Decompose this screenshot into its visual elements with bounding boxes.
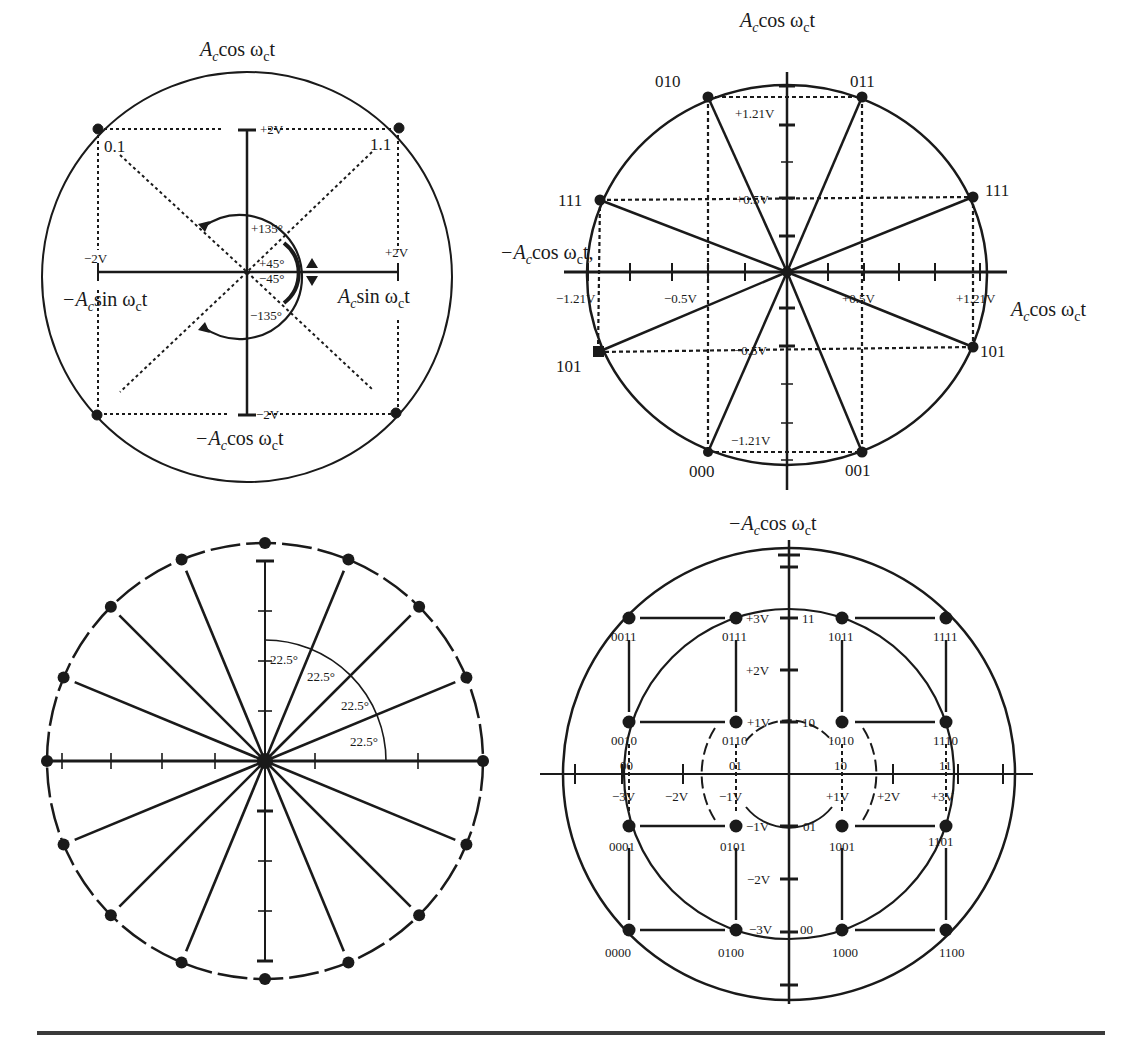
qpsk-labels: Accos ωct −Accos ωct −Acsin ωct Acsin ωc… [62, 38, 410, 453]
qam16-point-label-1011: 1011 [828, 629, 854, 644]
qam16-x-code-01: 01 [729, 758, 742, 773]
psk16-point [460, 838, 472, 850]
psk16-point [413, 601, 425, 613]
psk16-point [41, 755, 53, 767]
psk8-point-label-111-right: 111 [985, 181, 1009, 200]
qam16-y-code-10: 10 [802, 715, 815, 730]
psk8-point-101-left [593, 346, 604, 357]
psk8-point-001 [857, 447, 868, 458]
qam16-point-1111 [940, 612, 953, 625]
qpsk-point-label-01: 0.1 [104, 137, 125, 156]
arrowhead-icon [198, 322, 210, 333]
qam16-point-label-0001: 0001 [609, 839, 635, 854]
qpsk-tick-bottom: −2V [256, 407, 280, 422]
qpsk-angle-label-m135: −135° [250, 308, 282, 323]
psk8-y-tick-p05: +0.5V [736, 192, 770, 207]
psk8-point-010 [703, 92, 714, 103]
arrowhead-icon [198, 221, 210, 232]
psk16-point [58, 672, 70, 684]
qam16-diagram [540, 540, 1033, 1004]
qpsk-axis-label-top: Accos ωct [198, 38, 275, 64]
qam16-y-tick-m2: −2V [747, 872, 771, 887]
psk8-point-label-000: 000 [689, 462, 715, 481]
qam16-point-0100 [730, 924, 743, 937]
qam16-point-label-0111: 0111 [722, 629, 747, 644]
psk8-x-tick-m121: −1.21V [556, 291, 596, 306]
qam16-y-tick-p1: +1V [747, 715, 771, 730]
psk8-x-tick-p05: +0.5V [842, 291, 876, 306]
qam16-point-label-1010: 1010 [828, 733, 854, 748]
qam16-point-0110 [730, 716, 743, 729]
psk16-point [477, 755, 489, 767]
psk8-point-101-right [968, 342, 979, 353]
qam16-x-tick-p3: +3V [931, 789, 955, 804]
qam16-x-code-00: 00 [620, 758, 633, 773]
qam16-point-0101 [730, 820, 743, 833]
qpsk-tick-left: −2V [84, 251, 108, 266]
qpsk-point-00 [92, 410, 102, 420]
qam16-point-1010 [836, 716, 849, 729]
constellation-figure: Accos ωct −Accos ωct −Acsin ωct Acsin ωc… [0, 0, 1139, 1053]
psk8-x-tick-p121: +1.21V [956, 291, 996, 306]
psk16-point [176, 956, 188, 968]
psk8-point-label-101-right: 101 [980, 342, 1006, 361]
qam16-x-tick-m1: −1V [719, 789, 743, 804]
qam16-point-label-1000: 1000 [832, 945, 858, 960]
qam16-labels: −Accos ωct −3V −2V −1V +1V +2V +3V 00 01… [605, 512, 965, 960]
qam16-point-0111 [730, 612, 743, 625]
constellation-diagrams-svg: Accos ωct −Accos ωct −Acsin ωct Acsin ωc… [0, 0, 1139, 1053]
psk8-point-label-101-left: 101 [556, 357, 582, 376]
psk16-point [259, 973, 271, 985]
qpsk-angle-label-m45: −45° [259, 271, 285, 286]
qam16-point-1000 [836, 924, 849, 937]
psk8-point-111-right [968, 192, 979, 203]
qpsk-axis-label-right: Acsin ωct [336, 285, 410, 311]
qam16-point-1001 [836, 820, 849, 833]
qam16-point-1100 [940, 924, 953, 937]
qam16-point-label-0011: 0011 [611, 629, 637, 644]
qpsk-point-label-11: 1.1 [370, 135, 391, 154]
psk16-diagram [41, 537, 489, 985]
qam16-point-1101 [940, 820, 953, 833]
qam16-y-code-00: 00 [800, 922, 813, 937]
psk8-y-tick-p121: +1.21V [735, 106, 775, 121]
arrowhead-icon [306, 258, 318, 268]
figure-bottom-rule [37, 1031, 1105, 1035]
qam16-point-1011 [836, 612, 849, 625]
psk16-angle-label-1: 22.5° [270, 652, 298, 667]
psk16-angle-label-4: 22.5° [350, 734, 378, 749]
psk16-point [105, 601, 117, 613]
qpsk-point-10 [391, 408, 401, 418]
psk16-origin [257, 753, 273, 769]
qam16-point-label-0101: 0101 [720, 839, 746, 854]
psk8-point-000 [703, 447, 713, 457]
qam16-point-label-1111: 1111 [933, 629, 958, 644]
psk8-x-tick-m05: −0.5V [664, 291, 698, 306]
psk8-point-label-010: 010 [655, 72, 681, 91]
qam16-axis-label-top: −Accos ωct [728, 512, 817, 538]
qam16-point-label-0000: 0000 [605, 945, 631, 960]
qam16-point-0011 [623, 612, 636, 625]
qam16-x-tick-p1: +1V [826, 789, 850, 804]
qpsk-axis-label-bottom: −Accos ωct [195, 427, 284, 453]
qam16-y-tick-p2: +2V [746, 663, 770, 678]
psk16-angle-label-3: 22.5° [341, 698, 369, 713]
qam16-point-0001 [623, 820, 636, 833]
qam16-point-label-1101: 1101 [928, 834, 954, 849]
qpsk-tick-right: +2V [385, 245, 409, 260]
psk8-y-tick-m05: −0.5V [734, 343, 768, 358]
psk16-angle-label-2: 22.5° [307, 669, 335, 684]
psk8-point-111-left [595, 195, 606, 206]
psk16-point [460, 672, 472, 684]
psk8-y-tick-m121: −1.21V [731, 433, 771, 448]
qpsk-point-01 [93, 124, 103, 134]
qam16-point-label-0100: 0100 [718, 945, 744, 960]
psk16-point [58, 838, 70, 850]
psk8-point-label-001: 001 [845, 461, 871, 480]
qam16-x-tick-m2: −2V [665, 789, 689, 804]
qam16-x-tick-p2: +2V [877, 789, 901, 804]
qpsk-angle-label-p45: +45° [259, 256, 285, 271]
psk8-point-label-011: 011 [850, 72, 875, 91]
psk16-point [342, 554, 354, 566]
psk16-point [342, 956, 354, 968]
